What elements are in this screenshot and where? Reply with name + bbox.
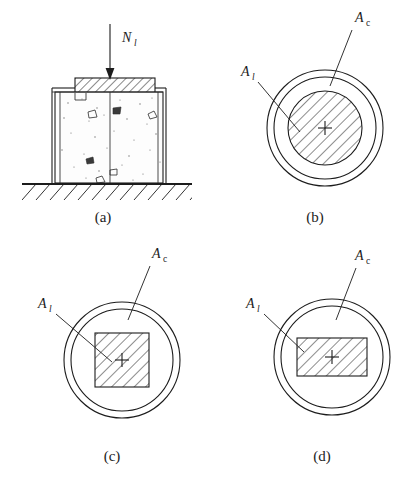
label-al-b-base: A <box>240 64 250 79</box>
leader-ac-d <box>336 268 356 320</box>
label-ac-c-base: A <box>151 246 161 261</box>
panel-d: A c A l (d) <box>245 248 390 465</box>
label-ac-b-subscript: c <box>366 18 370 28</box>
label-al-c-base: A <box>37 296 47 311</box>
panel-c: A c A l (c) <box>37 246 180 465</box>
label-al-d-base: A <box>245 296 255 311</box>
concrete-body <box>52 88 166 184</box>
panel-c-caption: (c) <box>104 448 121 465</box>
panel-d-caption: (d) <box>313 448 331 465</box>
label-ac-d: A c <box>354 248 370 266</box>
label-al-b: A l <box>240 64 255 82</box>
panel-a-caption: (a) <box>95 209 112 226</box>
panel-b: A c A l (b) <box>240 10 383 226</box>
load-arrow-icon <box>106 24 115 80</box>
load-label: N l <box>121 30 137 48</box>
figure-root: N l <box>0 0 410 485</box>
label-ac-b-base: A <box>354 10 364 25</box>
technical-figure: N l <box>0 0 410 485</box>
label-al-c: A l <box>37 296 52 314</box>
leader-ac-b <box>330 30 352 86</box>
load-label-subscript: l <box>134 38 137 48</box>
label-ac-d-subscript: c <box>366 256 370 266</box>
label-ac-b: A c <box>354 10 370 28</box>
panel-a: N l <box>22 24 204 226</box>
label-al-d-subscript: l <box>257 304 260 314</box>
label-ac-c: A c <box>151 246 167 264</box>
leader-al-b <box>258 82 300 132</box>
label-al-c-subscript: l <box>49 304 52 314</box>
label-ac-c-subscript: c <box>163 254 167 264</box>
load-label-base: N <box>121 30 132 45</box>
ground-hatching <box>22 184 204 200</box>
label-al-b-subscript: l <box>252 72 255 82</box>
label-ac-d-base: A <box>354 248 364 263</box>
label-al-d: A l <box>245 296 260 314</box>
bearing-plate <box>75 78 155 93</box>
panel-b-caption: (b) <box>306 209 324 226</box>
